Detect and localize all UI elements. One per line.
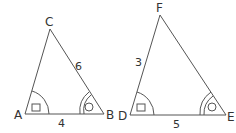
angle-a-square-marker: [32, 104, 40, 111]
angle-e-circle-marker: [208, 103, 216, 111]
angle-b-circle-marker: [85, 103, 93, 111]
angle-d-square-marker: [137, 104, 145, 111]
similar-triangles-figure: A B C 6 4 D E F 3 5: [0, 0, 236, 133]
side-label-de: 5: [173, 118, 180, 131]
triangle-abc-outline: [25, 29, 104, 114]
triangle-abc: A B C 6 4: [14, 15, 114, 130]
vertex-label-d: D: [118, 109, 127, 123]
vertex-label-b: B: [106, 108, 114, 122]
vertex-label-c: C: [45, 15, 53, 29]
side-label-bc: 6: [75, 60, 82, 73]
triangle-def: D E F 3 5: [118, 1, 235, 131]
vertex-label-f: F: [156, 1, 163, 15]
side-label-ab: 4: [58, 117, 65, 130]
triangle-def-outline: [130, 15, 226, 115]
vertex-label-a: A: [14, 108, 23, 122]
vertex-label-e: E: [227, 110, 235, 124]
side-label-df: 3: [135, 56, 142, 69]
